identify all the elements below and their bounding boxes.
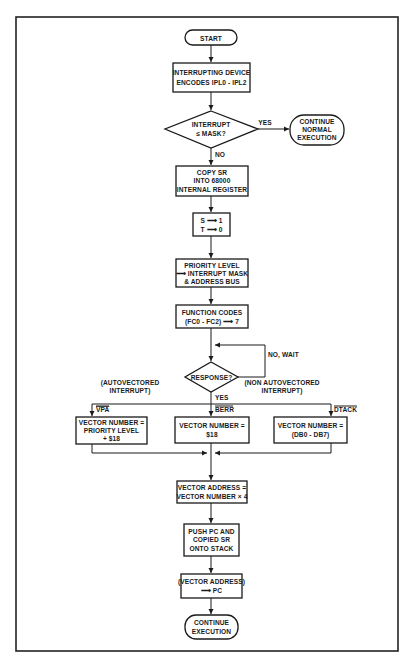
node-copy-sr-line-2: INTO 68000 [194,177,231,184]
node-vec-berr-line-1: VECTOR NUMBER = [179,422,244,429]
edge-label-vpa: VPA [96,406,110,413]
node-set-st: S ⟶ 1 T ⟶ 0 [193,213,230,236]
node-response: RESPONSE? [185,362,238,392]
node-push-line-3: ONTO STACK [190,545,234,552]
edge-label-berr: BERR [215,406,234,413]
node-priority-line-1: PRIORITY LEVEL [184,262,240,269]
node-start: START [185,30,237,45]
node-response-label: RESPONSE? [191,374,233,381]
node-continue-normal-line-1: CONTINUE [299,118,335,125]
node-priority-line-2: ⟶ INTERRUPT MASK [176,270,249,277]
node-continue-execution: CONTINUE EXECUTION [185,615,238,639]
node-continue-exec-line-2: EXECUTION [192,628,232,635]
node-vec-berr-line-2: $18 [206,431,218,439]
node-load-pc: (VECTOR ADDRESS) ⟶ PC [178,574,245,598]
node-function-codes-line-2: (FC0 - FC2) ⟶ 7 [185,318,239,326]
node-encode-line-2: ENCODES IPL0 - IPL2 [176,79,246,86]
edge-label-dtack: DTACK [334,406,357,413]
node-continue-normal-line-3: EXECUTION [297,134,337,141]
node-copy-sr: COPY SR INTO 68000 INTERNAL REGISTER [176,166,248,196]
edge-label-no-wait: NO, WAIT [268,351,299,359]
node-continue-normal: CONTINUE NORMAL EXECUTION [290,115,344,145]
node-priority: PRIORITY LEVEL ⟶ INTERRUPT MASK & ADDRES… [176,259,249,287]
node-continue-exec-line-1: CONTINUE [194,619,230,626]
node-continue-normal-line-2: NORMAL [302,126,332,133]
node-set-st-line-2: T ⟶ 0 [201,226,223,233]
node-function-codes-line-1: FUNCTION CODES [182,309,243,316]
node-copy-sr-line-1: COPY SR [197,169,227,176]
node-vec-dtack-line-2: (DB0 - DB7) [292,431,330,439]
node-vec-auto-line-2: PRIORITY LEVEL [84,427,140,434]
node-mask-check-line-2: ≤ MASK? [196,130,226,137]
node-load-pc-line-1: (VECTOR ADDRESS) [178,578,245,586]
node-vector-berr: VECTOR NUMBER = $18 [175,417,249,443]
edge-label-non-autovectored-1: (NON AUTOVECTORED [244,379,319,387]
node-vec-addr-line-1: VECTOR ADDRESS = [178,484,247,491]
node-mask-check: INTERRUPT ≤ MASK? [165,111,258,148]
edge-label-yes-response: YES [215,394,229,401]
node-encode: INTERRUPTING DEVICE ENCODES IPL0 - IPL2 [173,63,251,92]
node-vector-address: VECTOR ADDRESS = VECTOR NUMBER × 4 [176,481,247,503]
edge-label-autovectored-2: INTERRUPT) [110,387,151,395]
node-push-line-2: COPIED SR [193,536,230,543]
edge-label-no-mask: NO [215,151,225,158]
node-push-line-1: PUSH PC AND [188,528,234,535]
node-priority-line-3: & ADDRESS BUS [184,278,240,285]
node-mask-check-line-1: INTERRUPT [192,121,231,128]
node-vector-dtack: VECTOR NUMBER = (DB0 - DB7) [274,417,347,443]
node-encode-line-1: INTERRUPTING DEVICE [173,69,251,76]
node-vec-dtack-line-1: VECTOR NUMBER = [278,422,343,429]
node-load-pc-line-2: ⟶ PC [201,587,223,594]
edge-label-yes-mask: YES [258,119,272,126]
edge-label-autovectored-1: (AUTOVECTORED [101,379,160,387]
node-vec-auto-line-1: VECTOR NUMBER = [79,419,144,426]
node-vec-addr-line-2: VECTOR NUMBER × 4 [176,493,247,500]
node-function-codes: FUNCTION CODES (FC0 - FC2) ⟶ 7 [176,305,248,328]
node-vector-autovectored: VECTOR NUMBER = PRIORITY LEVEL + $18 [76,417,147,444]
node-push: PUSH PC AND COPIED SR ONTO STACK [184,524,239,556]
flowchart-figure: START INTERRUPTING DEVICE ENCODES IPL0 -… [0,0,409,664]
node-copy-sr-line-3: INTERNAL REGISTER [177,186,248,193]
edge-label-non-autovectored-2: INTERRUPT) [262,387,303,395]
node-start-label: START [200,35,222,42]
node-set-st-line-1: S ⟶ 1 [200,217,222,224]
node-vec-auto-line-3: + $18 [103,435,120,443]
